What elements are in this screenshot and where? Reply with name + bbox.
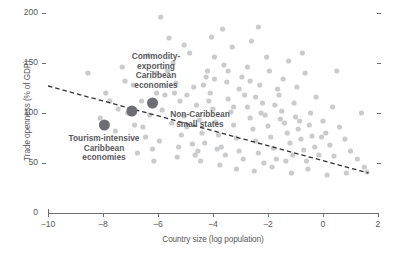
scatter-point	[194, 102, 199, 107]
scatter-point	[230, 44, 235, 49]
y-tick-mark	[42, 163, 46, 164]
scatter-point	[224, 79, 229, 84]
y-tick-mark	[42, 13, 46, 14]
y-tick-label: 150	[0, 57, 38, 67]
x-axis-title: Country size (log population)	[48, 235, 378, 244]
scatter-point	[215, 146, 220, 151]
scatter-point	[355, 156, 360, 161]
x-tick-label: 0	[303, 219, 343, 229]
scatter-point	[221, 62, 226, 67]
scatter-point	[330, 104, 335, 109]
scatter-point	[334, 68, 339, 73]
scatter-point	[293, 114, 298, 119]
scatter-point	[241, 156, 246, 161]
scatter-point	[216, 132, 221, 137]
scatter-point	[140, 124, 145, 129]
scatter-point	[239, 74, 244, 79]
scatter-point	[320, 118, 325, 123]
y-tick-label: 50	[0, 157, 38, 167]
annotation-non-caribbean: Non-Caribbean small states	[148, 110, 252, 129]
scatter-point	[300, 50, 305, 55]
scatter-point	[231, 104, 236, 109]
scatter-point	[287, 140, 292, 145]
scatter-point	[260, 100, 265, 105]
scatter-point	[309, 133, 314, 138]
scatter-point	[294, 84, 299, 89]
scatter-point	[139, 98, 144, 103]
scatter-point	[292, 100, 297, 105]
scatter-point	[290, 152, 295, 157]
y-tick-mark-right	[377, 113, 381, 114]
scatter-point	[323, 130, 328, 135]
scatter-point	[304, 158, 309, 163]
scatter-point	[154, 90, 159, 95]
scatter-point	[176, 144, 181, 149]
scatter-point	[212, 76, 217, 81]
y-tick-mark-right	[377, 163, 381, 164]
scatter-point	[85, 70, 90, 75]
scatter-point	[325, 172, 330, 177]
scatter-point	[226, 96, 231, 101]
scatter-point	[182, 42, 187, 47]
scatter-point	[278, 116, 283, 121]
y-axis-origin-stub	[48, 209, 49, 214]
scatter-point	[132, 122, 137, 127]
scatter-point	[364, 169, 369, 174]
scatter-point	[245, 104, 250, 109]
scatter-point	[268, 134, 273, 139]
scatter-point	[125, 110, 130, 115]
scatter-point	[175, 154, 180, 159]
scatter-point	[264, 54, 269, 59]
scatter-point	[261, 160, 266, 165]
scatter-point	[316, 152, 321, 157]
scatter-point	[259, 110, 264, 115]
scatter-point	[274, 156, 279, 161]
scatter-point	[162, 92, 167, 97]
scatter-point	[319, 134, 324, 139]
y-tick-mark-right	[377, 63, 381, 64]
scatter-point	[198, 158, 203, 163]
scatter-point	[327, 142, 332, 147]
scatter-point	[263, 112, 268, 117]
scatter-point	[179, 132, 184, 137]
scatter-point	[219, 144, 224, 149]
scatter-point	[256, 24, 261, 29]
scatter-point	[177, 98, 182, 103]
scatter-point	[252, 168, 257, 173]
x-axis-line	[48, 213, 378, 214]
scatter-point	[157, 138, 162, 143]
scatter-point	[314, 94, 319, 99]
scatter-point	[265, 123, 270, 128]
x-tick-mark	[378, 213, 379, 217]
scatter-point	[249, 38, 254, 43]
scatter-point	[158, 14, 163, 19]
scatter-point	[272, 102, 277, 107]
scatter-point	[217, 162, 222, 167]
scatter-point	[301, 147, 306, 152]
scatter-point	[289, 170, 294, 175]
scatter-point	[98, 115, 103, 120]
scatter-point	[337, 124, 342, 129]
x-tick-label: −2	[248, 219, 288, 229]
scatter-point	[234, 135, 239, 140]
scatter-point	[116, 106, 121, 111]
scatter-point	[184, 92, 189, 97]
y-tick-mark-right	[377, 13, 381, 14]
scatter-point	[209, 34, 214, 39]
scatter-point	[281, 76, 286, 81]
scatter-point	[285, 130, 290, 135]
x-tick-label: −4	[193, 219, 233, 229]
highlighted-point	[147, 98, 158, 109]
scatter-point	[253, 138, 258, 143]
scatter-point	[275, 86, 280, 91]
scatter-point	[226, 68, 231, 73]
scatter-point	[234, 166, 239, 171]
y-tick-label: 100	[0, 107, 38, 117]
scatter-point	[242, 92, 247, 97]
scatter-point	[103, 90, 108, 95]
x-tick-label: −6	[138, 219, 178, 229]
scatter-point	[297, 118, 302, 123]
scatter-point	[308, 110, 313, 115]
scatter-point	[166, 35, 171, 40]
scatter-point	[245, 64, 250, 69]
